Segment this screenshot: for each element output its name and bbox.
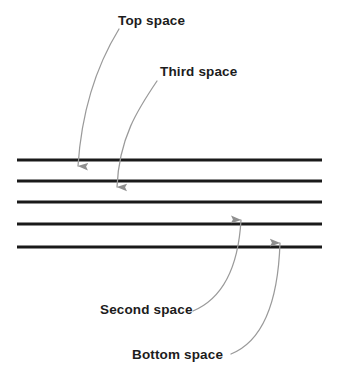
label-third-space: Third space <box>160 65 237 79</box>
label-bottom-space: Bottom space <box>132 348 223 362</box>
arrow-third-space-leader <box>117 81 157 187</box>
staff-diagram-canvas <box>0 0 339 377</box>
arrow-bottom-space-leader <box>231 243 280 354</box>
staff-lines-group <box>17 160 322 247</box>
label-top-space: Top space <box>118 14 185 28</box>
arrow-top-space-leader <box>78 29 119 166</box>
staff-spaces-diagram: Top space Third space Second space Botto… <box>0 0 339 377</box>
arrow-second-space-leader <box>193 220 241 311</box>
label-second-space: Second space <box>100 303 193 317</box>
